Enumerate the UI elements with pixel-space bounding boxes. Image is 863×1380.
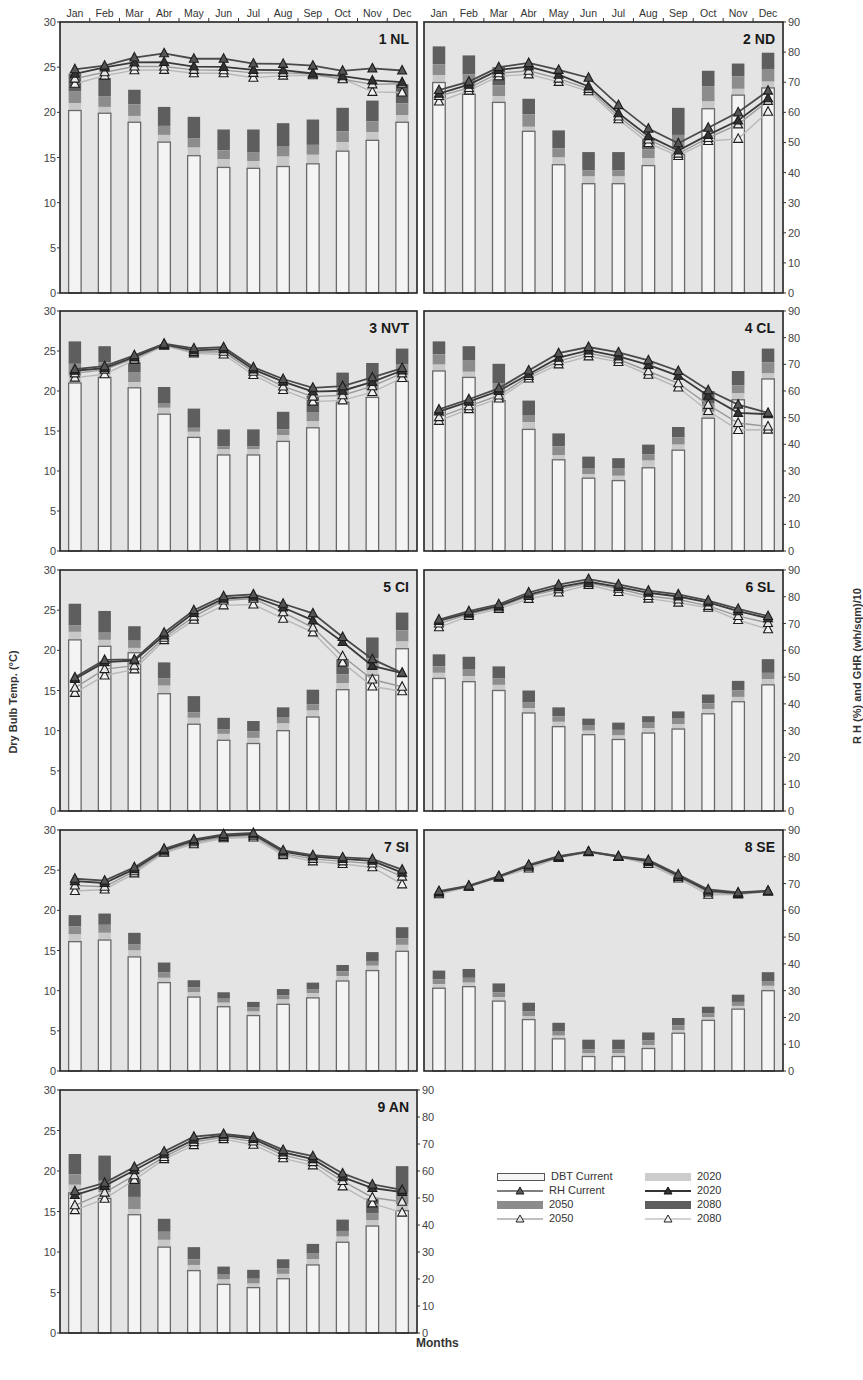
right-tick-label: 30 xyxy=(788,725,800,737)
right-tick-label: 20 xyxy=(788,751,800,763)
month-label: Feb xyxy=(96,7,114,19)
left-tick-label: 10 xyxy=(44,725,56,737)
left-tick-label: 25 xyxy=(44,345,56,357)
right-tick-label: 50 xyxy=(422,1192,434,1204)
right-tick-label: 10 xyxy=(788,518,800,530)
right-tick-label: 50 xyxy=(788,136,800,148)
legend: DBT Current RH Current 2050 2050 2020 xyxy=(497,1170,737,1230)
month-label: Jul xyxy=(247,7,260,19)
right-tick-label: 10 xyxy=(788,778,800,790)
right-tick-label: 90 xyxy=(788,564,800,576)
right-tick-label: 60 xyxy=(788,106,800,118)
right-tick-label: 30 xyxy=(422,1246,434,1258)
right-tick-label: 90 xyxy=(788,16,800,28)
right-tick-label: 40 xyxy=(788,438,800,450)
right-tick-label: 70 xyxy=(788,878,800,890)
legend-swatch-bar-dark xyxy=(645,1201,691,1209)
panel-title: 2 ND xyxy=(743,31,775,47)
panel-9-an: 9 AN0510152025300102030405060708090 xyxy=(44,1084,435,1339)
legend-label: DBT Current xyxy=(551,1170,613,1183)
right-tick-label: 0 xyxy=(788,287,794,299)
right-tick-label: 80 xyxy=(788,591,800,603)
left-tick-label: 30 xyxy=(44,1084,56,1096)
left-tick-label: 15 xyxy=(44,685,56,697)
right-tick-label: 60 xyxy=(422,1165,434,1177)
panel-title: 6 SL xyxy=(745,579,775,595)
panel-2-nd: 2 ND0102030405060708090JanFebMarAbrMayJu… xyxy=(424,7,800,299)
month-label: May xyxy=(184,7,205,19)
month-label: Jan xyxy=(430,7,447,19)
month-label: Mar xyxy=(125,7,144,19)
right-tick-label: 50 xyxy=(788,412,800,424)
legend-item-2080-line: 2080 xyxy=(645,1212,721,1225)
month-label: Sep xyxy=(304,7,323,19)
right-tick-label: 50 xyxy=(788,671,800,683)
left-tick-label: 25 xyxy=(44,61,56,73)
legend-label: 2050 xyxy=(549,1212,573,1225)
month-label: Oct xyxy=(700,7,716,19)
right-tick-label: 60 xyxy=(788,644,800,656)
right-tick-label: 40 xyxy=(788,958,800,970)
right-tick-label: 0 xyxy=(788,1065,794,1077)
panel-4-cl: 4 CL0102030405060708090 xyxy=(424,305,800,557)
right-tick-label: 30 xyxy=(788,985,800,997)
month-label: Abr xyxy=(156,7,173,19)
left-tick-label: 30 xyxy=(44,564,56,576)
panel-6-sl: 6 SL0102030405060708090 xyxy=(424,564,800,817)
left-tick-label: 20 xyxy=(44,106,56,118)
left-tick-label: 5 xyxy=(50,242,56,254)
left-tick-label: 25 xyxy=(44,1125,56,1137)
right-tick-label: 20 xyxy=(788,227,800,239)
legend-item-2080-bar: 2080 xyxy=(645,1198,721,1211)
right-tick-label: 20 xyxy=(422,1273,434,1285)
month-label: Nov xyxy=(729,7,748,19)
month-label: Jan xyxy=(66,7,83,19)
month-label: Dec xyxy=(759,7,778,19)
month-label: Nov xyxy=(363,7,382,19)
left-tick-label: 10 xyxy=(44,465,56,477)
left-tick-label: 0 xyxy=(50,1065,56,1077)
legend-swatch-bar-outline xyxy=(497,1173,545,1181)
right-tick-label: 70 xyxy=(788,76,800,88)
month-label: Oct xyxy=(334,7,350,19)
left-tick-label: 5 xyxy=(50,1287,56,1299)
month-label: Mar xyxy=(490,7,509,19)
left-tick-label: 30 xyxy=(44,16,56,28)
right-tick-label: 0 xyxy=(788,805,794,817)
right-tick-label: 10 xyxy=(422,1300,434,1312)
left-tick-label: 0 xyxy=(50,1327,56,1339)
legend-label: 2080 xyxy=(697,1212,721,1225)
left-tick-label: 10 xyxy=(44,985,56,997)
right-tick-label: 60 xyxy=(788,904,800,916)
month-label: Aug xyxy=(274,7,293,19)
legend-swatch-line-triangle xyxy=(497,1187,543,1195)
panel-title: 7 SI xyxy=(384,839,409,855)
legend-item-2020-line: 2020 xyxy=(645,1184,721,1197)
legend-swatch-line-triangle xyxy=(497,1215,543,1223)
month-label: Jul xyxy=(612,7,625,19)
left-tick-label: 15 xyxy=(44,425,56,437)
right-tick-label: 90 xyxy=(788,305,800,317)
legend-item-2020-bar: 2020 xyxy=(645,1170,721,1183)
left-tick-label: 0 xyxy=(50,287,56,299)
legend-item-rh-current: RH Current xyxy=(497,1184,605,1197)
left-tick-label: 5 xyxy=(50,505,56,517)
legend-swatch-bar-mid xyxy=(497,1201,543,1209)
month-label: Sep xyxy=(669,7,688,19)
month-label: Dec xyxy=(393,7,412,19)
month-label: Jun xyxy=(215,7,232,19)
right-tick-label: 80 xyxy=(788,46,800,58)
y-axis-label-left: Dry Bulb Temp. (°C) xyxy=(7,627,19,777)
legend-item-dbt-current: DBT Current xyxy=(497,1170,613,1183)
panel-title: 8 SE xyxy=(745,839,775,855)
right-tick-label: 40 xyxy=(788,167,800,179)
right-tick-label: 80 xyxy=(788,332,800,344)
right-tick-label: 60 xyxy=(788,385,800,397)
legend-swatch-bar-light xyxy=(645,1173,691,1181)
right-tick-label: 0 xyxy=(788,545,794,557)
left-tick-label: 30 xyxy=(44,305,56,317)
left-tick-label: 20 xyxy=(44,1165,56,1177)
y-axis-label-right: R H (%) and GHR (wh/sqm)/10 xyxy=(851,566,863,766)
month-label: Feb xyxy=(460,7,478,19)
